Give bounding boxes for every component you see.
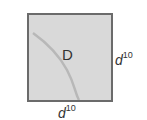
right-dimension-base: d xyxy=(115,52,123,68)
bottom-dimension-label: d10 xyxy=(58,106,76,120)
right-dimension-label: d10 xyxy=(115,53,133,67)
region-label: D xyxy=(62,47,73,62)
bottom-dimension-base: d xyxy=(58,105,66,120)
right-dimension-exponent: 10 xyxy=(123,50,133,60)
bottom-dimension-exponent: 10 xyxy=(66,103,76,113)
